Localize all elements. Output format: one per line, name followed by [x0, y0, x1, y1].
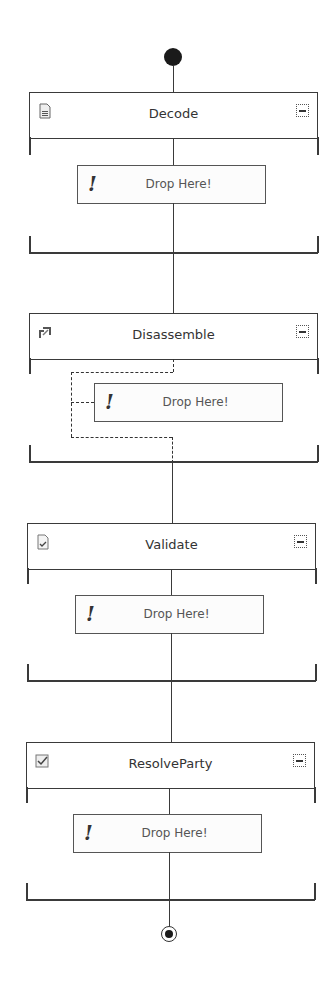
bracket-right [317, 358, 319, 374]
connector-line [169, 852, 170, 900]
connector-line [171, 633, 172, 681]
stage-header[interactable]: Decode [29, 92, 318, 139]
collapse-button[interactable] [296, 325, 309, 338]
bracket-right [315, 664, 317, 681]
drop-label: Drop Here! [76, 607, 263, 621]
bracket-left [29, 358, 31, 374]
start-node [164, 48, 182, 66]
bracket-bottom [29, 461, 318, 463]
stage-header[interactable]: Disassemble [29, 313, 318, 360]
bracket-right [315, 568, 317, 584]
stage-resolveparty: ResolveParty ! Drop Here! [26, 742, 315, 902]
dashed-connector [71, 372, 173, 373]
stage-title: Validate [28, 537, 315, 552]
bracket-left [27, 664, 29, 681]
drop-label: Drop Here! [74, 826, 261, 840]
collapse-button[interactable] [296, 104, 309, 117]
drop-zone[interactable]: ! Drop Here! [73, 814, 262, 853]
bracket-right [314, 787, 316, 803]
bracket-left [29, 236, 31, 253]
bracket-left [29, 137, 31, 155]
dashed-connector [71, 402, 94, 403]
end-node [161, 926, 177, 942]
bracket-right [317, 445, 319, 462]
bracket-left [26, 787, 28, 803]
stage-title: ResolveParty [27, 756, 314, 771]
drop-zone[interactable]: ! Drop Here! [75, 595, 264, 634]
connector-line [172, 463, 173, 524]
connector-line [171, 570, 172, 595]
connector-line [173, 139, 174, 165]
collapse-button[interactable] [293, 754, 306, 767]
collapse-button[interactable] [294, 535, 307, 548]
bracket-bottom [26, 899, 315, 901]
dashed-connector [173, 359, 174, 372]
drop-label: Drop Here! [78, 177, 265, 191]
drop-zone[interactable]: ! Drop Here! [94, 383, 283, 422]
drop-label: Drop Here! [95, 395, 282, 409]
bracket-left [27, 568, 29, 584]
dashed-connector [71, 372, 72, 437]
stage-decode: Decode ! Drop Here! [29, 92, 318, 254]
drop-zone[interactable]: ! Drop Here! [77, 165, 266, 204]
end-node-dot [165, 930, 173, 938]
bracket-right [314, 883, 316, 900]
stage-header[interactable]: Validate [27, 523, 316, 570]
connector-line [169, 901, 170, 927]
dashed-connector [172, 437, 173, 463]
connector-line [173, 254, 174, 314]
stage-disassemble: Disassemble ! Drop Here! [29, 313, 318, 463]
connector-line [173, 203, 174, 253]
bracket-right [317, 137, 319, 155]
connector-line [171, 682, 172, 743]
bracket-left [26, 883, 28, 900]
connector-line [169, 789, 170, 814]
dashed-connector [71, 437, 172, 438]
connector-line [173, 66, 174, 93]
stage-header[interactable]: ResolveParty [26, 742, 315, 789]
stage-title: Disassemble [30, 327, 317, 342]
stage-title: Decode [30, 106, 317, 121]
bracket-left [29, 445, 31, 462]
stage-validate: Validate ! Drop Here! [27, 523, 316, 683]
bracket-right [317, 236, 319, 253]
